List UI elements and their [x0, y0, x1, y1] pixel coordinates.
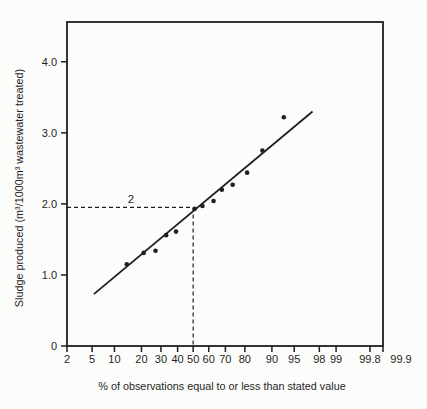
data-point [211, 199, 216, 204]
x-tick-label: 98 [313, 353, 325, 365]
y-tick-label: 2.0 [42, 198, 57, 210]
data-point [164, 233, 169, 238]
data-point [200, 204, 205, 209]
y-axis-ticks: 01.02.03.04.0 [42, 56, 67, 352]
x-tick-label: 80 [239, 353, 251, 365]
data-points [124, 115, 286, 267]
data-point [141, 251, 146, 256]
x-tick-label: 10 [108, 353, 120, 365]
x-tick-label: 20 [135, 353, 147, 365]
data-point [220, 187, 225, 192]
x-tick-label: 2 [64, 353, 70, 365]
trend-line [94, 112, 313, 295]
y-axis-title: Sludge produced (m³/1000m³ wastewater tr… [13, 69, 25, 307]
data-point [260, 148, 265, 153]
x-tick-label: 60 [203, 353, 215, 365]
x-axis-ticks: 2510203040506070809095989999.899.9 [64, 346, 412, 365]
data-point [230, 182, 235, 187]
y-tick-label: 4.0 [42, 56, 57, 68]
data-point [124, 262, 129, 267]
median-guide-lines [67, 207, 193, 346]
data-point [174, 229, 179, 234]
x-tick-label: 30 [155, 353, 167, 365]
x-tick-label: 70 [219, 353, 231, 365]
y-tick-label: 0 [51, 340, 57, 352]
data-point [153, 248, 158, 253]
data-point [245, 170, 250, 175]
probability-plot-figure: 2510203040506070809095989999.899.9 01.02… [0, 0, 427, 409]
x-axis-title: % of observations equal to or less than … [98, 380, 345, 392]
data-point [282, 115, 287, 120]
x-tick-label: 90 [266, 353, 278, 365]
best-fit-line [94, 112, 313, 295]
y-tick-label: 1.0 [42, 269, 57, 281]
data-point [192, 207, 197, 212]
chart-canvas: 2510203040506070809095989999.899.9 01.02… [0, 0, 427, 409]
x-tick-label: 99.9 [390, 353, 411, 365]
y-tick-label: 3.0 [42, 127, 57, 139]
median-value-label: 2 [128, 193, 134, 205]
x-tick-label: 95 [288, 353, 300, 365]
x-tick-label: 5 [89, 353, 95, 365]
x-tick-label: 99 [330, 353, 342, 365]
x-tick-label: 50 [187, 353, 199, 365]
x-tick-label: 99.8 [359, 353, 380, 365]
x-tick-label: 40 [171, 353, 183, 365]
